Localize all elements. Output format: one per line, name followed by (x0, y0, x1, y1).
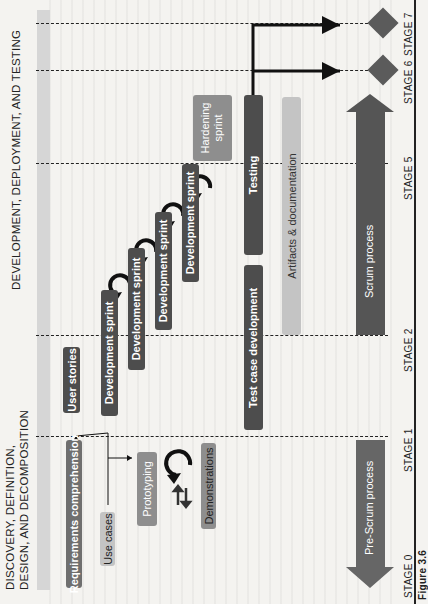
demonstrations-box: Demonstrations (201, 443, 216, 529)
scrum-process-label: Scrum process (363, 225, 375, 298)
test-case-development-box: Test case development (244, 265, 263, 430)
requirements-comprehension-box: Requirements comprehension (66, 440, 82, 588)
development-sprint-box-3: Development sprint (155, 212, 172, 330)
hardening-sprint-box: Hardeningsprint (193, 95, 232, 161)
prototyping-box: Prototyping (137, 452, 157, 526)
artifacts-documentation-box: Artifacts & documentation (282, 97, 301, 335)
user-stories-box: User stories (63, 347, 80, 413)
development-sprint-box-4: Development sprint (182, 164, 199, 282)
development-sprint-box-2: Development sprint (128, 248, 145, 370)
testing-box: Testing (244, 95, 263, 255)
use-cases-box: Use cases (100, 512, 115, 566)
development-sprint-box-1: Development sprint (101, 290, 118, 416)
pre-scrum-process-label: Pre-Scrum process (363, 461, 375, 555)
